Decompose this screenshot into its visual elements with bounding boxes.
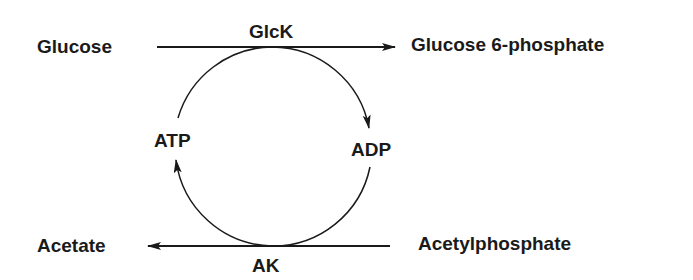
node-glucose-6-phosphate: Glucose 6-phosphate xyxy=(411,35,604,54)
enzyme-ak: AK xyxy=(252,256,279,275)
node-acetylphosphate: Acetylphosphate xyxy=(418,234,571,253)
cycle-arc-left-upper xyxy=(178,47,272,118)
cycle-arc-top-right xyxy=(272,47,369,128)
cycle-arc-right-lower xyxy=(272,167,370,246)
node-atp: ATP xyxy=(154,131,191,150)
node-glucose: Glucose xyxy=(37,37,112,56)
enzyme-glck: GlcK xyxy=(249,22,293,41)
node-adp: ADP xyxy=(351,140,391,159)
node-acetate: Acetate xyxy=(37,236,106,255)
cycle-arc-bottom-left xyxy=(176,160,272,246)
